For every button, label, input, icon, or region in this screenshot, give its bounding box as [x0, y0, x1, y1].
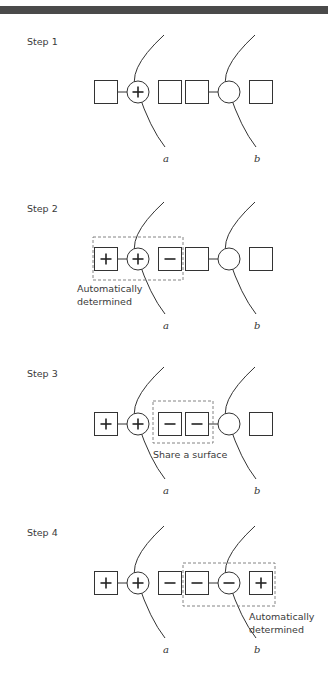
- annotation-text: determined: [77, 296, 132, 307]
- circle-node: [218, 248, 240, 270]
- surface-b-label: b: [254, 320, 260, 331]
- annotation-text: Automatically: [77, 283, 143, 294]
- square-node: [95, 572, 118, 595]
- circle-node: [127, 248, 149, 270]
- square-node: [250, 572, 273, 595]
- step-label: Step 1: [27, 36, 58, 47]
- circle-node: [218, 81, 240, 103]
- square-node: [186, 572, 209, 595]
- step-label: Step 3: [27, 368, 58, 379]
- square-node: [95, 413, 118, 436]
- circle-node: [218, 413, 240, 435]
- square-node: [159, 413, 182, 436]
- square-node: [159, 572, 182, 595]
- square-node: [250, 81, 273, 104]
- square-node: [250, 413, 273, 436]
- circle-node: [127, 572, 149, 594]
- step-label: Step 4: [27, 527, 58, 538]
- surface-b-label: b: [254, 485, 260, 496]
- square-node: [250, 248, 273, 271]
- square-node: [186, 248, 209, 271]
- annotation-text: determined: [249, 624, 304, 635]
- circle-node: [218, 572, 240, 594]
- annotation-text: Automatically: [249, 611, 315, 622]
- circle-node: [127, 81, 149, 103]
- surface-b-label: b: [254, 644, 260, 655]
- surface-a-label: a: [163, 153, 169, 164]
- square-node: [159, 248, 182, 271]
- surface-a-label: a: [163, 644, 169, 655]
- step-1: Step 1ab: [27, 35, 273, 164]
- step-3: Step 3abShare a surface: [27, 367, 273, 496]
- step-label: Step 2: [27, 203, 58, 214]
- annotation-text: Share a surface: [153, 449, 228, 460]
- surface-a-label: a: [163, 320, 169, 331]
- circle-node: [127, 413, 149, 435]
- step-4: Step 4abAutomaticallydetermined: [27, 526, 315, 655]
- square-node: [186, 413, 209, 436]
- square-node: [186, 81, 209, 104]
- square-node: [95, 248, 118, 271]
- surface-b-label: b: [254, 153, 260, 164]
- surface-a-label: a: [163, 485, 169, 496]
- square-node: [95, 81, 118, 104]
- step-2: Step 2abAutomaticallydetermined: [27, 202, 273, 331]
- stepwise-sign-diagram: Step 1abStep 2abAutomaticallydeterminedS…: [0, 0, 328, 674]
- square-node: [159, 81, 182, 104]
